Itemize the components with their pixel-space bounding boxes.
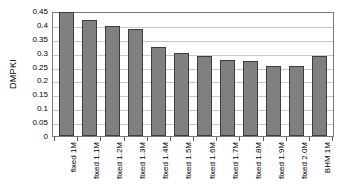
bar[interactable] — [266, 66, 281, 136]
x-axis-label-slot: fixed 1.6M — [193, 142, 216, 193]
x-axis-tick — [332, 137, 333, 141]
bar-slot — [193, 13, 216, 136]
y-axis-tick-label: 0.25 — [32, 64, 48, 72]
x-axis-label-slot: fixed 1M — [54, 142, 77, 193]
bar-slot — [239, 13, 262, 136]
bar[interactable] — [151, 47, 166, 136]
bar-slot — [101, 13, 124, 136]
bar[interactable] — [174, 53, 189, 136]
y-axis-tick-label: 0.2 — [37, 77, 48, 85]
y-axis-tick-label: 0 — [44, 133, 48, 141]
y-axis-tick-label: 0.45 — [32, 8, 48, 16]
y-axis-tick-label: 0.1 — [37, 105, 48, 113]
bar[interactable] — [82, 20, 97, 136]
x-axis-tick — [147, 137, 148, 141]
x-axis-label-slot: fixed 1.5M — [170, 142, 193, 193]
x-axis-tick — [193, 137, 194, 141]
x-axis-label-slot: fixed 1.9M — [263, 142, 286, 193]
x-axis-tick — [77, 137, 78, 141]
x-axis-label-slot: BHM 1M — [309, 142, 332, 193]
bar-slot — [262, 13, 285, 136]
x-axis-tick — [54, 137, 55, 141]
x-axis-label-slot: fixed 1.1M — [77, 142, 100, 193]
bar[interactable] — [59, 12, 74, 136]
x-axis-tick — [309, 137, 310, 141]
x-axis-tick — [216, 137, 217, 141]
bar-slot — [216, 13, 239, 136]
y-axis-tick-label: 0.15 — [32, 91, 48, 99]
bar[interactable] — [289, 66, 304, 136]
x-axis-tick — [100, 137, 101, 141]
bar-slot — [124, 13, 147, 136]
bar[interactable] — [312, 56, 327, 136]
x-axis-tick — [263, 137, 264, 141]
bar-slot — [170, 13, 193, 136]
x-axis-label-slot: fixed 1.4M — [147, 142, 170, 193]
bar-chart: DMPKI 00.050.10.150.20.250.30.350.40.45 … — [0, 0, 354, 193]
x-axis-tick-labels: fixed 1Mfixed 1.1Mfixed 1.2Mfixed 1.3Mfi… — [52, 142, 334, 193]
x-axis-label-slot: fixed 1.2M — [100, 142, 123, 193]
bar-slot — [285, 13, 308, 136]
y-axis-tick-label: 0.3 — [37, 50, 48, 58]
x-axis-ticks — [52, 137, 334, 141]
x-axis-tick — [239, 137, 240, 141]
x-axis-tick — [124, 137, 125, 141]
y-axis-tick-label: 0.35 — [32, 36, 48, 44]
y-axis-tick-label: 0.4 — [37, 22, 48, 30]
bar[interactable] — [197, 56, 212, 136]
y-axis-tick-labels: 00.050.10.150.20.250.30.350.40.45 — [20, 8, 50, 138]
bar-series — [53, 13, 333, 136]
bar[interactable] — [105, 26, 120, 136]
plot-area — [52, 12, 334, 137]
x-axis-tick — [170, 137, 171, 141]
x-axis-label-slot: fixed 1.3M — [124, 142, 147, 193]
bar[interactable] — [220, 60, 235, 136]
bar[interactable] — [128, 29, 143, 136]
y-axis-title-label: DMPKI — [8, 59, 18, 89]
x-axis-label-slot: fixed 1.7M — [216, 142, 239, 193]
bar-slot — [78, 13, 101, 136]
bar[interactable] — [243, 61, 258, 136]
x-axis-label-slot: fixed 2.0M — [286, 142, 309, 193]
y-axis-tick-label: 0.05 — [32, 119, 48, 127]
bar-slot — [55, 13, 78, 136]
x-axis-tick-label: BHM 1M — [324, 142, 332, 173]
bar-slot — [147, 13, 170, 136]
bar-slot — [308, 13, 331, 136]
x-axis-label-slot: fixed 1.8M — [239, 142, 262, 193]
x-axis-tick — [286, 137, 287, 141]
